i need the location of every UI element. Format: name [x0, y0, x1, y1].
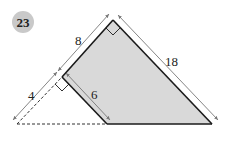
problem-number: 23: [17, 15, 31, 30]
label-top-left-side: 8: [75, 33, 82, 48]
label-left-extension: 4: [28, 88, 35, 103]
trapezoid-diagram: 23 8 18 4 6: [0, 0, 225, 157]
problem-number-badge: 23: [12, 11, 34, 33]
label-inner-height: 6: [91, 87, 98, 102]
label-top-right-side: 18: [165, 54, 178, 69]
